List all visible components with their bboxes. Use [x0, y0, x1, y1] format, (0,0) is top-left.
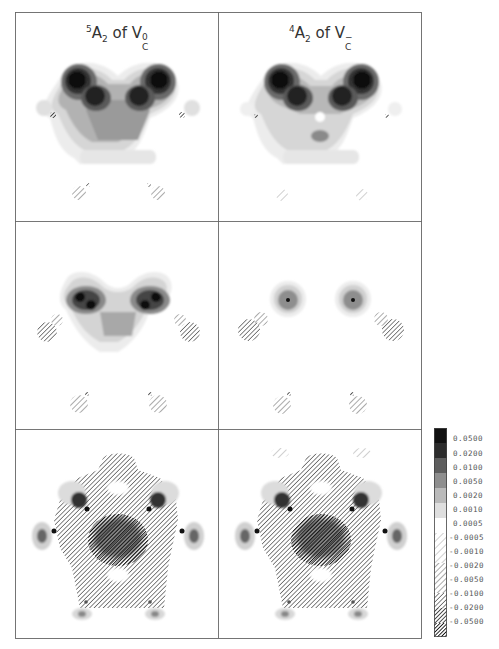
colorbar-label: -0.0500: [449, 617, 484, 626]
colorbar-label: 0.0500: [453, 434, 483, 443]
colorbar-label: 0.0100: [453, 463, 483, 472]
panel-middle-right: [238, 281, 404, 414]
colorbar-label: -0.0005: [449, 533, 484, 542]
contour-figure: 5A2 of V0C 4A2 of V−C 0.0500 0.0200 0.01…: [0, 0, 499, 649]
panel-title-4A2-VC-minus: 4A2 of V−C: [289, 24, 353, 44]
colorbar-label: 0.0200: [453, 449, 483, 458]
panel-title-5A2-VC0: 5A2 of V0C: [86, 24, 150, 44]
panel-middle-left: [37, 272, 200, 413]
panel-bottom-right: [235, 448, 407, 620]
colorbar-label: 0.0050: [453, 477, 483, 486]
colorbar-label: 0.0005: [453, 519, 483, 528]
colorbar-label: -0.0010: [449, 547, 484, 556]
colorbar-label: -0.0020: [449, 561, 484, 570]
colorbar-label: -0.0100: [449, 589, 484, 598]
colorbar-label: 0.0020: [453, 491, 483, 500]
colorbar-label: 0.0010: [453, 505, 483, 514]
colorbar-label: -0.0200: [449, 603, 484, 612]
colorbar-label: -0.0050: [449, 575, 484, 584]
colorbar: [434, 428, 447, 637]
panel-top-right: [240, 63, 402, 201]
panel-bottom-left: [32, 454, 204, 621]
panel-top-left: [36, 63, 200, 200]
